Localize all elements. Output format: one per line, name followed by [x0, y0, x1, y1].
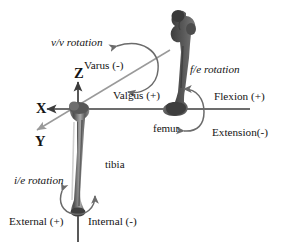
- external-positive-label: External (+): [9, 216, 63, 227]
- varus-negative-label: Varus (-): [84, 60, 123, 71]
- femur-label: femur: [153, 123, 179, 134]
- internal-negative-label: Internal (-): [88, 216, 137, 227]
- knee-coordinate-system-diagram: Z X Y v/v rotation Varus (-) Valgus (+) …: [0, 0, 282, 252]
- tibia-bone: [69, 102, 89, 217]
- axis-label-z: Z: [74, 66, 84, 81]
- axis-label-y: Y: [35, 134, 46, 149]
- fe-rotation-label: f/e rotation: [190, 64, 240, 75]
- ie-rotation-label: i/e rotation: [14, 175, 64, 186]
- vv-rotation-label: v/v rotation: [51, 37, 102, 48]
- extension-negative-label: Extension(-): [212, 127, 268, 138]
- flexion-positive-label: Flexion (+): [214, 91, 265, 102]
- tibia-label: tibia: [105, 159, 125, 170]
- axis-label-x: X: [36, 101, 47, 116]
- valgus-positive-label: Valgus (+): [113, 90, 160, 101]
